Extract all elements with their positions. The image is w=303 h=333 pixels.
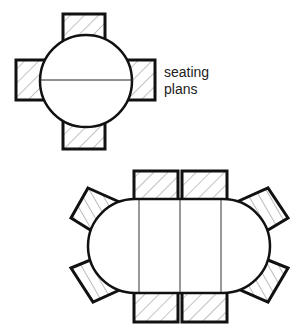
seating-plan-diagram xyxy=(0,0,303,333)
caption-line-2: plans xyxy=(164,81,209,98)
caption-line-1: seating xyxy=(164,64,209,81)
oval-table-plan xyxy=(71,171,288,322)
chair-bottom-2 xyxy=(182,290,227,322)
round-table-plan xyxy=(16,14,155,149)
diagram-caption: seating plans xyxy=(164,64,209,98)
oval-table xyxy=(88,199,270,293)
chair-bottom-1 xyxy=(134,290,178,322)
round-table xyxy=(40,35,132,127)
